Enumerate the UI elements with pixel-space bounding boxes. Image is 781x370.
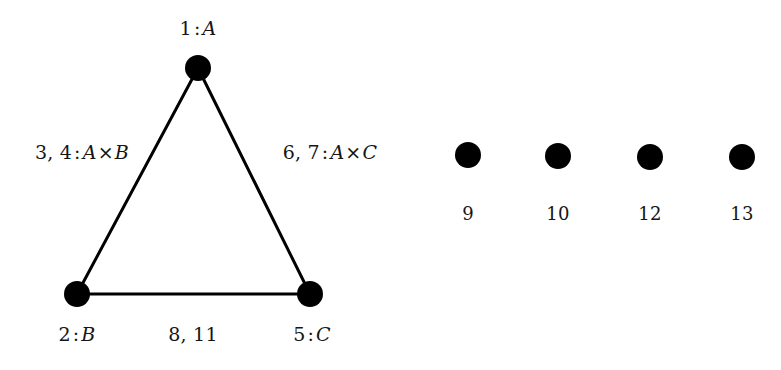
- isolated-node-10: [545, 143, 571, 169]
- isolated-node-12: [637, 144, 663, 170]
- node-label-a: 1:A: [180, 19, 217, 38]
- isolated-node-9: [455, 142, 481, 168]
- isolated-node-label-10: 10: [546, 205, 569, 223]
- isolated-node-13: [729, 144, 755, 170]
- graph-canvas: [0, 0, 781, 370]
- isolated-nodes-group: [455, 142, 755, 170]
- edge-bc-numbers: 8, 11: [168, 323, 217, 345]
- edge-ab-numbers: 3, 4: [35, 141, 72, 163]
- graph-node-a: [185, 55, 211, 81]
- node-c-separator: :: [305, 323, 316, 345]
- edge-ab-name-left: A: [83, 141, 97, 163]
- edge-label-a-c: 6, 7:A×C: [283, 143, 377, 162]
- node-b-separator: :: [71, 323, 82, 345]
- edge-ab-name-right: B: [115, 141, 129, 163]
- graph-figure: 1:A 2:B 5:C 3, 4:A×B 6, 7:A×C 8, 11 9 10…: [0, 0, 781, 370]
- isolated-node-label-13: 13: [730, 205, 753, 223]
- multiplication-icon: ×: [344, 141, 362, 163]
- multiplication-icon: ×: [97, 141, 115, 163]
- node-b-number: 2: [58, 323, 70, 345]
- graph-edge-a-b: [77, 68, 198, 294]
- nodes-group: [64, 55, 323, 307]
- isolated-node-label-12: 12: [638, 205, 661, 223]
- edges-group: [77, 68, 310, 294]
- edge-label-a-b: 3, 4:A×B: [35, 143, 129, 162]
- node-a-name: A: [202, 17, 216, 39]
- edge-label-b-c: 8, 11: [168, 325, 217, 344]
- graph-node-c: [297, 281, 323, 307]
- edge-ac-name-right: C: [362, 141, 377, 163]
- graph-edge-a-c: [198, 68, 310, 294]
- node-a-number: 1: [180, 17, 192, 39]
- edge-ab-separator: :: [72, 141, 83, 163]
- graph-node-b: [64, 281, 90, 307]
- node-label-b: 2:B: [58, 325, 95, 344]
- node-a-separator: :: [192, 17, 203, 39]
- isolated-node-label-9: 9: [462, 205, 474, 223]
- node-label-c: 5:C: [293, 325, 331, 344]
- node-c-number: 5: [293, 323, 305, 345]
- edge-ac-separator: :: [320, 141, 331, 163]
- node-b-name: B: [81, 323, 95, 345]
- edge-ac-name-left: A: [330, 141, 344, 163]
- node-c-name: C: [316, 323, 331, 345]
- edge-ac-numbers: 6, 7: [283, 141, 320, 163]
